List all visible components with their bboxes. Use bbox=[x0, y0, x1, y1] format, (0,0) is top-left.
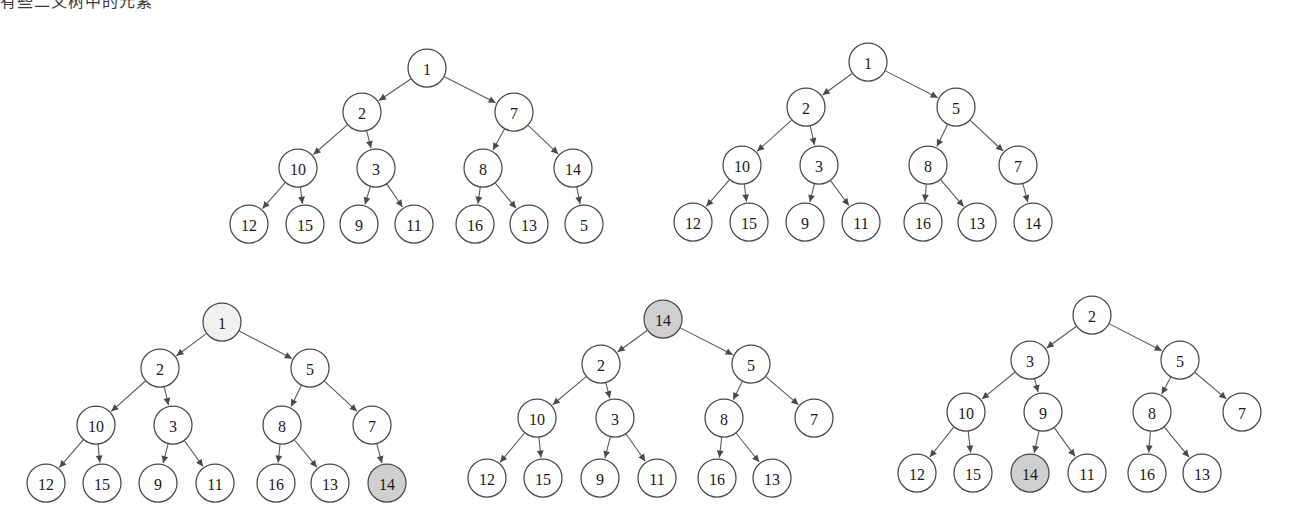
tree-node: 14 bbox=[644, 300, 682, 338]
edge-arrowhead-icon bbox=[96, 455, 103, 462]
tree-node: 11 bbox=[638, 459, 676, 497]
node-label: 10 bbox=[88, 418, 104, 435]
node-label: 7 bbox=[1238, 405, 1246, 422]
tree-node: 11 bbox=[395, 205, 433, 243]
edge-arrowhead-icon bbox=[930, 449, 937, 457]
edge-arrowhead-icon bbox=[1023, 195, 1030, 203]
tree-node: 10 bbox=[947, 393, 985, 431]
tree-node: 16 bbox=[698, 459, 736, 497]
node-label: 3 bbox=[1026, 353, 1034, 370]
edge-arrowhead-icon bbox=[1068, 449, 1075, 457]
tree-node: 14 bbox=[1011, 454, 1049, 492]
node-label: 10 bbox=[529, 411, 545, 428]
node-label: 7 bbox=[510, 105, 518, 122]
node-label: 15 bbox=[297, 217, 313, 234]
edge-arrowhead-icon bbox=[810, 137, 817, 145]
edge-arrowhead-icon bbox=[823, 88, 831, 95]
node-label: 11 bbox=[853, 215, 868, 232]
node-label: 8 bbox=[278, 418, 286, 435]
node-label: 5 bbox=[747, 357, 755, 374]
tree-top-left: 127103814121591116135 bbox=[230, 49, 603, 243]
tree-edge bbox=[680, 328, 732, 355]
edge-arrowhead-icon bbox=[366, 140, 373, 148]
node-label: 10 bbox=[958, 405, 974, 422]
tree-node: 2 bbox=[582, 345, 620, 383]
node-label: 11 bbox=[406, 217, 421, 234]
node-label: 14 bbox=[379, 476, 395, 493]
node-label: 2 bbox=[156, 361, 164, 378]
tree-node: 15 bbox=[83, 464, 121, 502]
node-label: 12 bbox=[909, 466, 925, 483]
node-label: 14 bbox=[1022, 466, 1038, 483]
tree-node: 12 bbox=[27, 464, 65, 502]
edge-arrowhead-icon bbox=[742, 194, 749, 201]
edge-arrowhead-icon bbox=[164, 397, 171, 405]
tree-node: 9 bbox=[139, 464, 177, 502]
edge-arrowhead-icon bbox=[618, 345, 626, 352]
tree-node: 14 bbox=[554, 149, 592, 187]
node-label: 8 bbox=[1148, 405, 1156, 422]
tree-node: 7 bbox=[353, 406, 391, 444]
edge-arrowhead-icon bbox=[1033, 384, 1040, 392]
tree-node: 12 bbox=[674, 203, 712, 241]
node-label: 5 bbox=[306, 361, 314, 378]
node-label: 1 bbox=[864, 55, 872, 72]
edge-arrowhead-icon bbox=[922, 194, 929, 201]
tree-node: 7 bbox=[1223, 393, 1261, 431]
tree-node: 9 bbox=[786, 203, 824, 241]
node-label: 16 bbox=[709, 471, 725, 488]
tree-node: 10 bbox=[723, 146, 761, 184]
edge-arrowhead-icon bbox=[752, 454, 759, 462]
edge-arrowhead-icon bbox=[1047, 341, 1055, 348]
tree-node: 13 bbox=[311, 464, 349, 502]
tree-node: 11 bbox=[196, 464, 234, 502]
edge-arrowhead-icon bbox=[176, 349, 184, 356]
node-label: 7 bbox=[368, 418, 376, 435]
node-label: 9 bbox=[154, 476, 162, 493]
node-label: 9 bbox=[1039, 405, 1047, 422]
tree-node: 9 bbox=[340, 205, 378, 243]
tree-node: 5 bbox=[565, 205, 603, 243]
node-label: 7 bbox=[810, 411, 818, 428]
tree-node: 16 bbox=[456, 205, 494, 243]
tree-edge bbox=[444, 77, 495, 103]
tree-node: 3 bbox=[154, 406, 192, 444]
node-label: 2 bbox=[802, 100, 810, 117]
tree-node: 10 bbox=[518, 399, 556, 437]
node-label: 5 bbox=[580, 217, 588, 234]
tree-node: 16 bbox=[257, 464, 295, 502]
node-label: 14 bbox=[655, 312, 671, 329]
tree-node: 5 bbox=[291, 349, 329, 387]
tree-node: 5 bbox=[1161, 341, 1199, 379]
tree-node: 1 bbox=[408, 49, 446, 87]
edge-arrowhead-icon bbox=[509, 201, 516, 209]
node-label: 15 bbox=[535, 471, 551, 488]
node-label: 11 bbox=[649, 471, 664, 488]
tree-node: 2 bbox=[343, 93, 381, 131]
tree-node: 10 bbox=[279, 149, 317, 187]
edge-group bbox=[706, 71, 1029, 207]
tree-node: 15 bbox=[286, 205, 324, 243]
tree-edge bbox=[1109, 324, 1161, 351]
node-label: 9 bbox=[355, 217, 363, 234]
edge-arrowhead-icon bbox=[982, 392, 990, 399]
tree-node: 2 bbox=[1073, 296, 1111, 334]
tree-node: 8 bbox=[263, 406, 301, 444]
edge-arrowhead-icon bbox=[379, 94, 387, 101]
edge-arrowhead-icon bbox=[717, 450, 724, 457]
tree-node: 3 bbox=[800, 146, 838, 184]
edge-group bbox=[262, 77, 582, 209]
edge-arrowhead-icon bbox=[808, 194, 815, 202]
node-label: 11 bbox=[1079, 466, 1094, 483]
tree-node: 10 bbox=[77, 406, 115, 444]
edge-arrowhead-icon bbox=[966, 445, 973, 452]
edge-arrowhead-icon bbox=[603, 450, 610, 458]
tree-node: 9 bbox=[581, 459, 619, 497]
node-label: 7 bbox=[1014, 158, 1022, 175]
node-label: 5 bbox=[952, 100, 960, 117]
node-label: 2 bbox=[358, 105, 366, 122]
tree-node: 1 bbox=[849, 43, 887, 81]
tree-node: 15 bbox=[730, 203, 768, 241]
tree-node: 2 bbox=[787, 88, 825, 126]
node-label: 13 bbox=[521, 217, 537, 234]
